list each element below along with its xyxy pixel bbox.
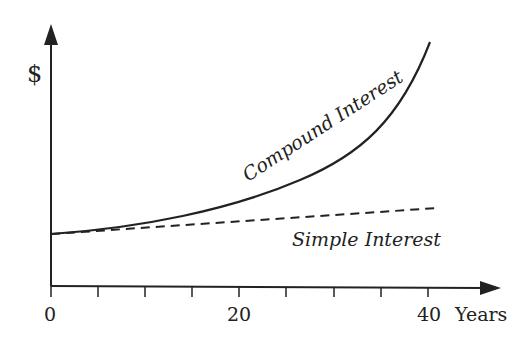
x-axis-arrow-icon	[480, 281, 501, 295]
y-axis-label: $	[27, 60, 42, 88]
x-tick-label-40: 40	[417, 303, 441, 325]
compound-interest-curve	[51, 42, 430, 234]
x-axis-label: Years	[454, 303, 507, 325]
y-axis-arrow-icon	[44, 24, 58, 45]
x-tick-label-20: 20	[227, 303, 251, 325]
interest-chart: 0 20 40 Years $ Compound Interest Simple…	[0, 0, 518, 344]
x-axis	[51, 286, 484, 288]
x-tick-label-0: 0	[44, 303, 56, 325]
simple-interest-label: Simple Interest	[292, 228, 441, 250]
